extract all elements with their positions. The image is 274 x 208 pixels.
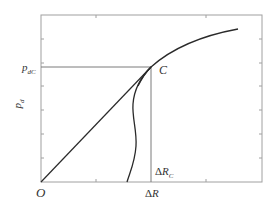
pdc-label: pdC <box>21 61 36 76</box>
origin-label: O <box>36 185 46 200</box>
x-axis-label: ΔR <box>145 187 159 199</box>
drc-label: ΔRC <box>155 165 174 180</box>
y-axis-label: pd <box>11 99 26 110</box>
lower-descending-curve <box>127 67 151 182</box>
point-c-label: C <box>159 63 168 77</box>
diagram-canvas: O pdC pd C ΔRC ΔR <box>0 0 274 208</box>
upper-response-curve <box>138 29 238 86</box>
